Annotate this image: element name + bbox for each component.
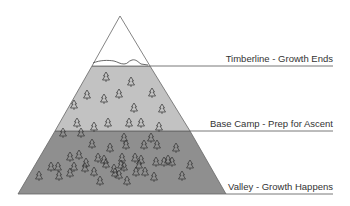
valley-label: Valley - Growth Happens (228, 181, 333, 192)
timberline-label: Timberline - Growth Ends (226, 53, 333, 64)
base-camp-label: Base Camp - Prep for Ascent (210, 118, 333, 129)
mountain-diagram (0, 0, 350, 206)
peak-zone (92, 16, 150, 66)
